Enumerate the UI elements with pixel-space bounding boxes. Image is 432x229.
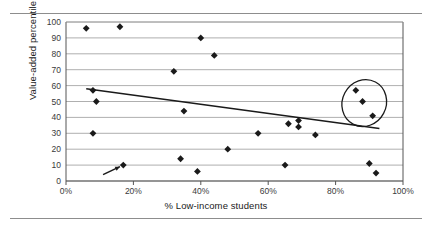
data-point xyxy=(285,120,292,127)
data-point xyxy=(170,68,177,75)
data-point xyxy=(93,98,100,105)
annotations-group xyxy=(103,72,395,175)
data-point xyxy=(194,168,201,175)
data-point xyxy=(373,170,380,177)
data-point xyxy=(120,162,127,169)
scatter-plot-figure: Value-added percentile % Low-income stud… xyxy=(0,0,432,229)
data-point xyxy=(366,160,373,167)
trendline xyxy=(86,89,379,129)
data-point xyxy=(197,35,204,42)
data-point xyxy=(359,98,366,105)
data-point xyxy=(117,23,124,30)
data-point xyxy=(255,130,262,137)
data-point xyxy=(295,124,302,131)
data-point xyxy=(282,162,289,169)
data-points-group xyxy=(83,23,380,176)
trendline-path xyxy=(86,89,379,129)
data-point xyxy=(90,130,97,137)
tick-marks-group xyxy=(66,181,403,185)
data-point xyxy=(177,155,184,162)
plot-canvas xyxy=(0,0,432,229)
gridlines-group xyxy=(66,22,403,181)
chart-figure-root: Value-added percentile % Low-income stud… xyxy=(0,0,432,229)
data-point xyxy=(83,25,90,32)
data-point xyxy=(352,87,359,94)
data-point xyxy=(224,146,231,153)
data-point xyxy=(211,52,218,59)
data-point xyxy=(90,87,97,94)
data-point xyxy=(312,131,319,138)
data-point xyxy=(369,112,376,119)
data-point xyxy=(181,108,188,115)
